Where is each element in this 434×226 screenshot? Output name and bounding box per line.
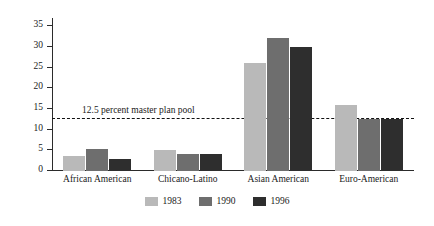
legend-label: 1996 (271, 196, 290, 206)
bar (109, 159, 131, 171)
y-axis-tick-label: 25 (34, 61, 44, 72)
bar (267, 38, 289, 171)
y-axis-tick-label: 15 (34, 102, 44, 113)
legend-label: 1990 (217, 196, 236, 206)
bar (381, 119, 403, 171)
bar (335, 105, 357, 171)
bar (200, 154, 222, 171)
legend-swatch (253, 197, 266, 206)
bar (63, 156, 85, 171)
bar (358, 119, 380, 171)
y-axis-tick-label: 5 (38, 143, 43, 154)
bar-chart-figure: Percent 05101520253035 12.5 percent mast… (0, 0, 434, 226)
chart-legend: 198319901996 (0, 196, 434, 206)
x-axis-category-label: Euro-American (324, 174, 415, 184)
y-axis-tick-label: 35 (34, 19, 44, 30)
bar (154, 150, 176, 171)
bar-group: Euro-American (324, 18, 415, 171)
bar-group: Chicano-Latino (143, 18, 234, 171)
y-axis-tick-label: 0 (38, 164, 43, 175)
y-axis-tick-label: 10 (34, 123, 44, 134)
legend-item: 1983 (145, 196, 182, 206)
legend-swatch (145, 197, 158, 206)
legend-swatch (199, 197, 212, 206)
x-axis-category-label: Chicano-Latino (143, 174, 234, 184)
legend-item: 1996 (253, 196, 290, 206)
y-axis-tick-label: 20 (34, 81, 44, 92)
bar-group: African American (52, 18, 143, 171)
bar (177, 154, 199, 171)
y-axis-tick-label: 30 (34, 40, 44, 51)
legend-label: 1983 (163, 196, 182, 206)
bar (290, 47, 312, 171)
x-axis-category-label: African American (52, 174, 143, 184)
x-axis-category-label: Asian American (233, 174, 324, 184)
bar-group: Asian American (233, 18, 324, 171)
legend-item: 1990 (199, 196, 236, 206)
plot-area: 05101520253035 12.5 percent master plan … (52, 18, 414, 171)
bar (244, 63, 266, 171)
bar (86, 149, 108, 171)
